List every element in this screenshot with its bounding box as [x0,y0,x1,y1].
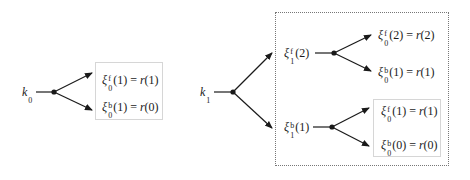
node-xi1f-2: ξf1(2) [284,46,309,60]
leaf-xi0f-1: ξf0(1) = r(1) [102,73,159,87]
node-xi1b-1: ξb1(1) [284,120,309,134]
root-k1: k1 [200,85,211,99]
root-k0: k0 [22,85,33,99]
leaf-xi0b-1: ξb0(1) = r(0) [102,100,159,114]
leaf-xi0b-1-upper: ξb0(1) = r(1) [378,65,435,79]
leaf-xi0f-1-lower: ξf0(1) = r(1) [381,104,438,118]
leaf-xi0b-0: ξb0(0) = r(0) [381,138,438,152]
left-tree-edges [36,73,92,110]
leaf-xi0f-2: ξf0(2) = r(2) [378,28,435,42]
